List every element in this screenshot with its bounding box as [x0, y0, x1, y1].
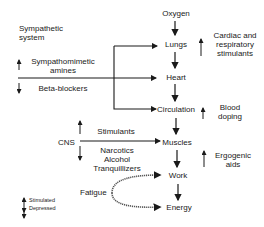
legend-stimulated: Stimulated	[29, 197, 55, 204]
sympathetic-line2: system	[19, 33, 63, 42]
node-heart: Heart	[160, 73, 192, 82]
ergogenic-line2: aids	[210, 160, 256, 169]
legend-depressed: Depressed	[29, 205, 56, 212]
node-work: Work	[163, 171, 193, 180]
blood-doping-label: Blood doping	[210, 103, 250, 121]
fatigue-label: Fatigue	[80, 188, 107, 197]
cardiac-line2: respiratory	[206, 40, 264, 49]
cns-label: CNS	[58, 138, 75, 147]
ergogenic-line1: Ergogenic	[210, 151, 256, 160]
node-muscles: Muscles	[160, 138, 194, 147]
blood-line1: Blood	[210, 103, 250, 112]
cardiac-stimulants-label: Cardiac and respiratory stimulants	[206, 31, 264, 58]
sympathomimetic-line2: amines	[28, 66, 98, 75]
stimulants-label: Stimulants	[88, 127, 144, 136]
blood-line2: doping	[210, 112, 250, 121]
sympathetic-line1: Sympathetic	[19, 24, 63, 33]
sympathetic-connectors	[18, 46, 157, 109]
node-lungs: Lungs	[160, 40, 192, 49]
node-oxygen: Oxygen	[160, 9, 192, 18]
sympathomimetic-label: Sympathomimetic amines	[28, 57, 98, 75]
sympathomimetic-line1: Sympathomimetic	[28, 57, 98, 66]
node-energy: Energy	[162, 203, 196, 212]
depressants-label: Narcotics Alcohol Tranquillizers	[84, 146, 150, 173]
node-circulation: Circulation	[155, 105, 197, 114]
sympathetic-system-label: Sympathetic system	[19, 24, 63, 42]
beta-blockers-label: Beta-blockers	[32, 84, 94, 93]
alcohol: Alcohol	[84, 155, 150, 164]
tranquillizers: Tranquillizers	[84, 164, 150, 173]
fatigue-curves	[112, 175, 160, 207]
narcotics: Narcotics	[84, 146, 150, 155]
ergogenic-aids-label: Ergogenic aids	[210, 151, 256, 169]
cardiac-line1: Cardiac and	[206, 31, 264, 40]
cardiac-line3: stimulants	[206, 49, 264, 58]
